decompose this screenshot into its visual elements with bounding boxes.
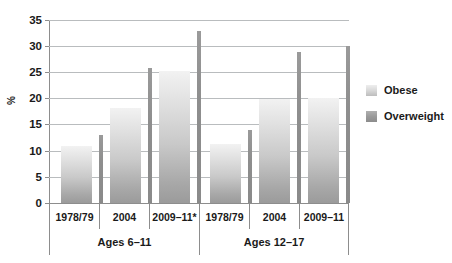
group-label-ages-12-17: Ages 12–17 xyxy=(199,229,349,255)
y-tick-label-20: 20 xyxy=(16,93,42,105)
bar-obese-ages6-11-2004 xyxy=(110,108,141,203)
bar-obese-ages12-17-1978-79 xyxy=(210,144,241,203)
legend-swatch-obese-icon xyxy=(366,85,377,96)
category-label-ages6-11-2004: 2004 xyxy=(99,204,149,229)
bars-layer xyxy=(49,20,349,203)
y-tick-label-0: 0 xyxy=(16,198,42,210)
chart-legend: Obese Overweight xyxy=(366,84,450,136)
category-label-ages6-11-2009-11: 2009–11* xyxy=(149,204,199,229)
y-tick-label-5: 5 xyxy=(16,172,42,184)
category-label-ages12-17-1978-79: 1978/79 xyxy=(199,204,249,229)
group-axis-row: Ages 6–11 Ages 12–17 xyxy=(49,229,350,255)
bar-overweight-ages12-17-2009-11 xyxy=(346,46,350,203)
legend-label-overweight: Overweight xyxy=(384,110,444,122)
y-tick-label-15: 15 xyxy=(16,119,42,131)
group-label-ages-6-11: Ages 6–11 xyxy=(49,229,199,255)
legend-label-obese: Obese xyxy=(384,84,418,96)
bar-obese-ages12-17-2004 xyxy=(259,99,290,203)
bar-overweight-ages6-11-2004 xyxy=(148,68,152,203)
y-tick-label-25: 25 xyxy=(16,67,42,79)
bar-obese-ages6-11-2009-11 xyxy=(159,71,190,203)
chart-container: % 35 30 25 20 15 10 5 0 xyxy=(0,0,452,263)
bar-obese-ages12-17-2009-11 xyxy=(308,98,339,203)
legend-item-overweight: Overweight xyxy=(366,110,450,122)
category-axis-row: 1978/79 2004 2009–11* 1978/79 2004 2009–… xyxy=(49,204,350,229)
y-tick-label-35: 35 xyxy=(16,15,42,27)
legend-swatch-overweight-icon xyxy=(366,111,377,122)
bar-overweight-ages12-17-1978-79 xyxy=(248,130,252,203)
y-tick-label-30: 30 xyxy=(16,41,42,53)
bar-overweight-ages6-11-1978-79 xyxy=(99,135,103,203)
category-label-ages6-11-1978-79: 1978/79 xyxy=(49,204,99,229)
bar-overweight-ages12-17-2004 xyxy=(297,52,301,203)
category-label-ages12-17-2004: 2004 xyxy=(249,204,299,229)
plot-area xyxy=(49,20,349,203)
category-label-ages12-17-2009-11: 2009–11 xyxy=(299,204,349,229)
legend-item-obese: Obese xyxy=(366,84,450,96)
bar-overweight-ages6-11-2009-11 xyxy=(197,31,201,203)
y-tick-label-10: 10 xyxy=(16,146,42,158)
bar-obese-ages6-11-1978-79 xyxy=(61,146,92,203)
